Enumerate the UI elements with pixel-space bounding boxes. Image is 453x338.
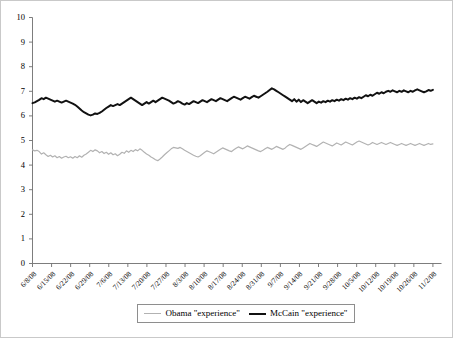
chart-legend: Obama "experience" McCain "experience" [137,304,355,323]
y-tick-label: 9 [7,38,25,47]
legend-label-obama: Obama "experience" [165,309,240,318]
y-tick-label: 2 [7,210,25,219]
y-tick-label: 0 [7,259,25,268]
y-tick-label: 7 [7,87,25,96]
y-tick-label: 3 [7,185,25,194]
legend-label-mccain: McCain "experience" [270,309,348,318]
legend-item-obama: Obama "experience" [144,309,240,318]
series-line-mccain [33,88,433,115]
y-tick-label: 6 [7,111,25,120]
y-tick-label: 10 [7,13,25,22]
legend-line-swatch-obama [144,313,161,314]
y-tick-label: 5 [7,136,25,145]
y-tick-label: 4 [7,161,25,170]
legend-item-mccain: McCain "experience" [249,309,348,318]
chart-container: 012345678910 6/8/086/15/086/22/086/29/08… [0,0,453,338]
y-tick-label: 8 [7,62,25,71]
legend-line-swatch-mccain [249,313,266,315]
x-axis-ticks [33,264,433,268]
series-line-obama [33,141,433,161]
y-axis-ticks [29,18,33,264]
y-tick-label: 1 [7,234,25,243]
chart-axes [33,18,442,264]
